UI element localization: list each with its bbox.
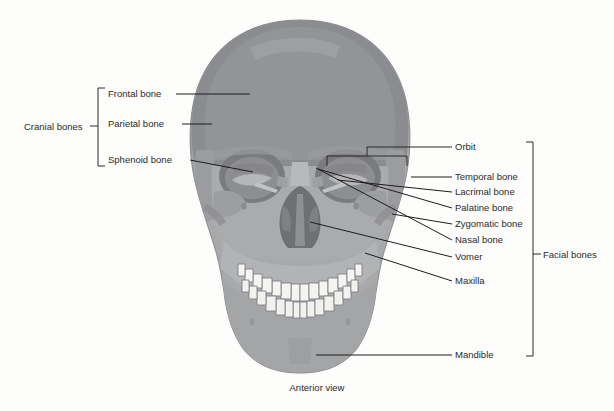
facial-bones-bracket — [526, 142, 541, 356]
label-parietal-bone: Parietal bone — [108, 118, 164, 129]
mandible-chin-shade — [288, 338, 312, 364]
foramen-left — [241, 202, 246, 209]
label-sphenoid-bone: Sphenoid bone — [108, 154, 172, 165]
mental-foramen-left — [250, 319, 254, 325]
label-frontal-bone: Frontal bone — [108, 88, 161, 99]
leader-zygomatic-bone — [392, 214, 452, 224]
cranial-bones-bracket — [90, 88, 105, 166]
label-mandible: Mandible — [455, 349, 494, 360]
nasal-bone-shape — [290, 162, 310, 186]
anatomy-figure-root: Cranial bones Frontal bone Parietal bone… — [0, 0, 614, 411]
label-facial-bones: Facial bones — [543, 249, 597, 260]
label-temporal-bone: Temporal bone — [455, 171, 518, 182]
skull-diagram: Cranial bones Frontal bone Parietal bone… — [0, 0, 614, 411]
label-vomer: Vomer — [455, 251, 482, 262]
label-orbit: Orbit — [455, 141, 476, 152]
skull-illustration — [186, 20, 410, 373]
foramen-right — [353, 202, 358, 209]
label-cranial-bones: Cranial bones — [24, 121, 83, 132]
mental-foramen-right — [346, 319, 350, 325]
lacrimal-bone-right-shape — [312, 176, 323, 188]
figure-caption: Anterior view — [290, 382, 345, 393]
label-palatine-bone: Palatine bone — [455, 202, 513, 213]
lacrimal-bone-left-shape — [277, 176, 288, 188]
label-zygomatic-bone: Zygomatic bone — [455, 218, 523, 229]
label-maxilla: Maxilla — [455, 275, 485, 286]
label-nasal-bone: Nasal bone — [455, 234, 503, 245]
label-lacrimal-bone: Lacrimal bone — [455, 186, 515, 197]
